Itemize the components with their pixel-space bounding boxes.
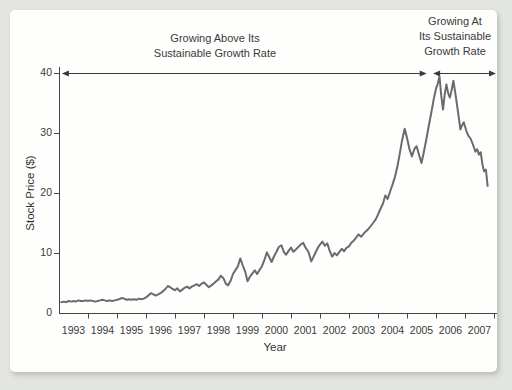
screen: { "page": { "background_color": "#e3e5e1… <box>0 0 512 390</box>
arrowhead-left-icon <box>62 71 69 77</box>
y-tick-label: 0 <box>24 306 52 318</box>
x-tick-label: 2007 <box>463 324 497 336</box>
y-tick-label: 20 <box>24 186 52 198</box>
chart-svg <box>10 10 497 372</box>
arrowhead-right-icon <box>420 71 427 77</box>
annotation-line: Sustainable Growth Rate <box>130 46 300 61</box>
annotation-line: Growing At <box>411 14 499 29</box>
y-tick-label: 30 <box>24 126 52 138</box>
annotation-line: Growing Above Its <box>130 31 300 46</box>
stock-price-line <box>61 77 487 303</box>
arrowhead-right-icon <box>489 71 496 77</box>
x-axis-title: Year <box>225 341 325 353</box>
annotation-above-sustainable: Growing Above Its Sustainable Growth Rat… <box>130 31 300 61</box>
y-tick-label: 10 <box>24 246 52 258</box>
arrowhead-left-icon <box>433 71 440 77</box>
y-tick-label: 40 <box>24 66 52 78</box>
annotation-line: Its Sustainable <box>411 29 499 44</box>
chart-card: Growing Above Its Sustainable Growth Rat… <box>10 10 497 372</box>
annotation-line: Growth Rate <box>411 44 499 59</box>
annotation-at-sustainable: Growing At Its Sustainable Growth Rate <box>411 14 499 59</box>
